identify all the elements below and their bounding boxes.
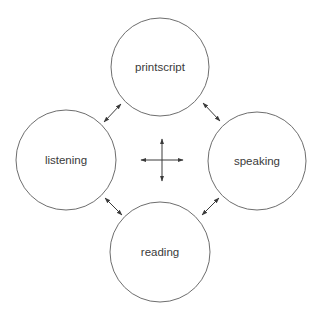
four-way-arrow-icon (141, 139, 183, 181)
arrow-reading-speaking-icon (202, 198, 219, 215)
arrow-listening-printscript-icon (104, 104, 121, 122)
speaking-label: speaking (234, 155, 280, 167)
diagram-canvas: printscript listening speaking reading (0, 0, 321, 316)
reading-label: reading (141, 246, 179, 258)
arrow-listening-reading-icon (105, 198, 122, 215)
printscript-label: printscript (135, 61, 186, 73)
node-speaking: speaking (208, 112, 306, 210)
node-printscript: printscript (111, 18, 209, 116)
listening-label: listening (45, 154, 87, 166)
node-reading: reading (110, 202, 210, 302)
language-modes-diagram: printscript listening speaking reading (0, 0, 321, 316)
node-listening: listening (16, 110, 116, 210)
arrow-printscript-speaking-icon (203, 103, 220, 121)
